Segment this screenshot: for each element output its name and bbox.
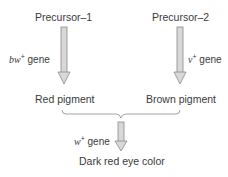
brace: [62, 110, 180, 118]
node-dark-red-eye-color: Dark red eye color: [79, 155, 165, 167]
arrow-v: [174, 27, 186, 84]
arrow-bw: [58, 27, 70, 84]
node-precursor-2: Precursor–2: [152, 11, 209, 23]
node-precursor-1: Precursor–1: [35, 11, 92, 23]
gene-label-w: w+ gene: [74, 135, 110, 147]
diagram-arrows: [0, 0, 228, 177]
gene-label-bw: bw+ gene: [9, 53, 50, 65]
node-red-pigment: Red pigment: [35, 93, 95, 105]
arrow-w: [115, 122, 127, 151]
gene-label-v: v+ gene: [188, 53, 222, 65]
node-brown-pigment: Brown pigment: [146, 93, 216, 105]
